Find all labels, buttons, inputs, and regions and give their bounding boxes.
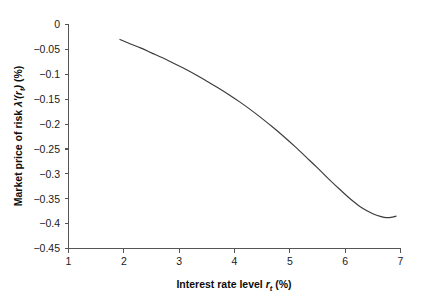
x-axis-ticks <box>69 249 401 253</box>
y-axis-title: Market price of risk λ'(rt) (%) <box>12 66 27 206</box>
y-axis-title-main: Market price of risk <box>12 107 24 206</box>
y-tick-label-0: 0 <box>54 18 60 30</box>
y-tick-label-5: −0.25 <box>33 143 60 155</box>
data-series-curve <box>120 39 396 217</box>
y-tick-label-2: −0.1 <box>39 68 60 80</box>
y-axis-ticks <box>65 25 69 249</box>
x-tick-label-2: 3 <box>176 255 182 267</box>
y-tick-label-3: −0.15 <box>33 93 60 105</box>
x-tick-label-3: 4 <box>232 255 238 267</box>
y-axis-tick-labels: 0 −0.05 −0.1 −0.15 −0.2 −0.25 −0.3 −0.35… <box>33 18 60 254</box>
y-tick-label-4: −0.2 <box>39 118 60 130</box>
x-tick-label-0: 1 <box>66 255 72 267</box>
y-tick-label-1: −0.05 <box>33 43 60 55</box>
market-price-of-risk-chart: 0 −0.05 −0.1 −0.15 −0.2 −0.25 −0.3 −0.35… <box>0 0 442 299</box>
x-axis-title-main: Interest rate level <box>176 278 265 290</box>
x-axis-title: Interest rate level rt (%) <box>176 278 291 293</box>
x-axis-tick-labels: 1 2 3 4 5 6 7 <box>66 255 404 267</box>
chart-page: 0 −0.05 −0.1 −0.15 −0.2 −0.25 −0.3 −0.35… <box>0 0 442 299</box>
y-tick-label-7: −0.35 <box>33 193 60 205</box>
y-axis-title-unit: (%) <box>12 66 24 85</box>
x-axis-title-unit: (%) <box>272 278 291 290</box>
x-tick-label-6: 7 <box>398 255 404 267</box>
x-tick-label-5: 6 <box>342 255 348 267</box>
y-tick-label-6: −0.3 <box>39 168 60 180</box>
y-tick-label-8: −0.4 <box>39 217 60 229</box>
x-tick-label-4: 5 <box>287 255 293 267</box>
x-tick-label-1: 2 <box>121 255 127 267</box>
y-tick-label-9: −0.45 <box>33 242 60 254</box>
